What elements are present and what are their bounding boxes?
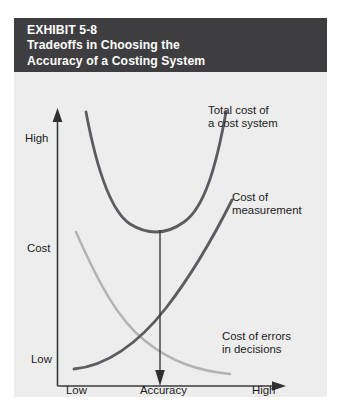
x-axis-high-label: High [252,384,275,397]
curve-label-total-cost: Total cost of a cost system [208,104,278,131]
curve-label-measurement-line2: measurement [232,204,302,216]
curve-cost-of-measurement [74,200,232,369]
exhibit-title-bar: EXHIBIT 5-8 Tradeoffs in Choosing the Ac… [14,18,327,72]
optimum-drop-arrow [155,230,165,386]
y-axis [53,108,63,386]
curve-label-total-cost-line1: Total cost of [208,104,269,116]
y-axis-high-label: High [25,132,48,146]
curve-label-errors-line1: Cost of errors [222,330,291,342]
y-axis-low-label: Low [31,353,52,367]
curve-cost-of-errors [76,232,230,374]
exhibit-figure-panel: EXHIBIT 5-8 Tradeoffs in Choosing the Ac… [14,18,327,397]
curve-total-cost [86,112,226,232]
y-axis-title-label: Cost [27,242,50,256]
curve-label-total-cost-line2: a cost system [208,117,278,129]
curve-label-measurement-line1: Cost of [232,191,268,203]
x-axis-title-label: Accuracy [140,384,187,397]
x-axis-low-label: Low [66,384,87,397]
exhibit-title-line-2: Accuracy of a Costing System [27,54,327,69]
exhibit-title-line-1: Tradeoffs in Choosing the [27,38,327,53]
curve-label-cost-of-measurement: Cost of measurement [232,191,302,218]
chart-plot-area: High Cost Low Low Accuracy High Total co… [14,72,327,397]
curve-label-errors-line2: in decisions [222,343,282,355]
exhibit-number: EXHIBIT 5-8 [27,23,327,38]
curve-label-cost-of-errors: Cost of errors in decisions [222,330,291,357]
